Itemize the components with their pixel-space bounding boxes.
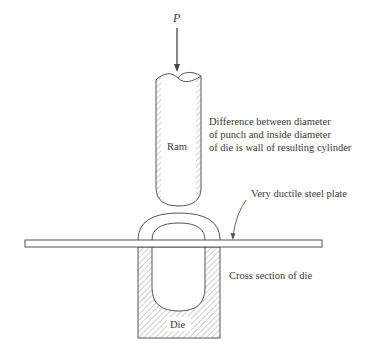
ram-label: Ram (167, 140, 187, 153)
note-line-2: of punch and inside diameter (209, 128, 331, 141)
force-arrow (174, 28, 180, 72)
die-label: Die (170, 318, 185, 331)
plate-leader-arrow (231, 200, 247, 240)
deep-drawing-diagram (0, 0, 378, 350)
note-line-1: Difference between diameter (209, 115, 331, 128)
note-line-3: of die is wall of resulting cylinder (209, 141, 351, 154)
force-label: P (173, 12, 180, 25)
steel-plate (25, 213, 322, 247)
plate-label: Very ductile steel plate (251, 187, 347, 200)
die-section-label: Cross section of die (229, 269, 312, 282)
